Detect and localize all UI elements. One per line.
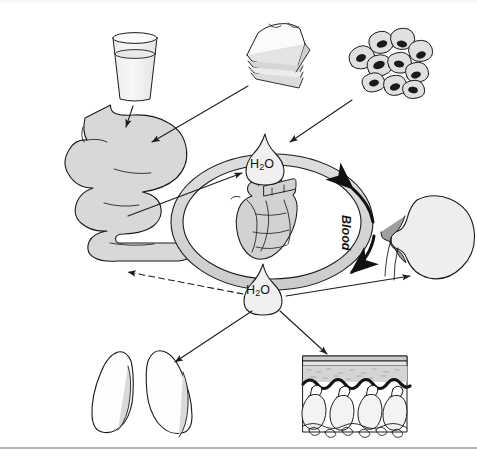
glass-of-water-graphic (113, 33, 157, 101)
water-label-bottom: H2O (246, 284, 270, 297)
arrow-food-to-stomach (152, 86, 248, 142)
bottom-divider (0, 447, 477, 449)
kidney-graphic (381, 196, 475, 280)
water-label-top: H2O (250, 158, 274, 171)
arrow-cells-to-water (290, 100, 352, 142)
stomach-intestine-graphic (65, 105, 190, 261)
cell-cluster-graphic (349, 28, 433, 98)
water-balance-diagram (0, 0, 477, 463)
blood-label: Blood (340, 215, 353, 250)
sandwich-graphic (247, 23, 310, 88)
arrow-water-to-skin (280, 311, 327, 354)
lungs-graphic (92, 351, 192, 437)
arrow-water-to-lungs (175, 311, 252, 362)
skin-cross-section-graphic (302, 356, 410, 437)
